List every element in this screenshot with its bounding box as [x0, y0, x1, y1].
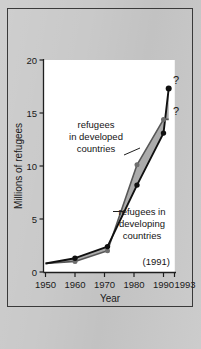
developing-countries-label-line-2: developing [119, 218, 165, 229]
y-tick-label: 15 [26, 108, 37, 119]
developing-countries-label-line-1: refugees in [118, 206, 165, 217]
y-axis-title: Millions of refugees [13, 123, 24, 209]
figure-panel: 20 15 10 5 0 1950 1960 1970 1980 1990 19… [0, 0, 201, 349]
x-axis-ticks [46, 273, 175, 278]
y-tick-label: 5 [32, 214, 37, 225]
y-tick-label: 10 [26, 161, 37, 172]
x-tick-label: 1993 [174, 279, 195, 290]
developed-countries-label-line-1: refugees [78, 119, 115, 130]
x-tick-label: 1980 [123, 279, 144, 290]
x-tick-label: 1990 [153, 279, 174, 290]
y-axis-tick-labels: 20 15 10 5 0 [26, 55, 37, 279]
question-mark-lower: ? [173, 105, 179, 117]
x-axis-tick-labels: 1950 1960 1970 1980 1990 1993 [35, 279, 196, 290]
x-tick-label: 1950 [35, 279, 56, 290]
source-year-note: (1991) [143, 256, 170, 267]
x-tick-label: 1970 [94, 279, 115, 290]
x-tick-label: 1960 [64, 279, 85, 290]
x-axis-title: Year [100, 293, 121, 304]
developed-countries-label-line-3: countries [77, 143, 116, 154]
question-mark-upper: ? [173, 74, 179, 86]
developing-countries-label-line-3: countries [123, 230, 162, 241]
y-tick-label: 0 [32, 267, 37, 278]
refugees-line-chart: 20 15 10 5 0 1950 1960 1970 1980 1990 19… [0, 0, 201, 349]
y-tick-label: 20 [26, 55, 37, 66]
developed-countries-label-line-2: in developed [69, 131, 123, 142]
developing-countries-label: refugees in developing countries [118, 206, 165, 241]
